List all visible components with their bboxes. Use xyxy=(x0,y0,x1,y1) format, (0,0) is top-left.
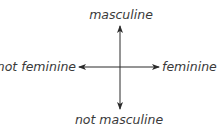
label-masculine: masculine xyxy=(89,8,153,22)
label-not-feminine: not feminine xyxy=(0,60,76,74)
gender-axes-diagram: masculine not masculine not feminine fem… xyxy=(0,0,218,132)
label-not-masculine: not masculine xyxy=(75,113,163,127)
label-feminine: feminine xyxy=(162,60,217,74)
